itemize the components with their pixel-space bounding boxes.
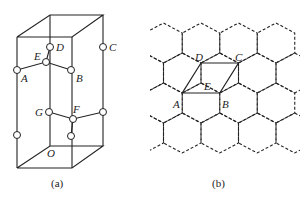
label-e: E: [33, 50, 41, 62]
atom-front-lower: [68, 133, 75, 140]
atom-left-lower: [14, 132, 21, 139]
atom-f: [70, 116, 77, 123]
label-a: A: [20, 72, 28, 84]
atom-right-mid: [100, 109, 107, 116]
label-g: G: [35, 106, 43, 118]
honeycomb-lattice: D C E A B (b): [122, 0, 305, 200]
atom-g: [46, 109, 53, 116]
label-a-b: A: [172, 98, 180, 110]
label-e-b: E: [203, 80, 211, 92]
label-d: D: [55, 41, 64, 53]
atom-a: [14, 67, 21, 74]
label-f: F: [72, 103, 80, 115]
caption-a: (a): [51, 177, 64, 190]
caption-b: (b): [212, 177, 225, 190]
atom-d: [47, 44, 54, 51]
label-c: C: [109, 41, 117, 53]
atom-b: [68, 67, 75, 74]
label-c-b: C: [235, 51, 243, 63]
label-b: B: [76, 72, 83, 84]
label-b-b: B: [222, 98, 229, 110]
figure-canvas: D C E A B G F O (a): [0, 0, 305, 200]
atom-e: [43, 59, 50, 66]
atom-c: [100, 44, 107, 51]
unit-cell-3d: D C E A B G F O (a): [14, 15, 118, 190]
label-o: O: [47, 147, 55, 159]
label-d-b: D: [194, 51, 203, 63]
